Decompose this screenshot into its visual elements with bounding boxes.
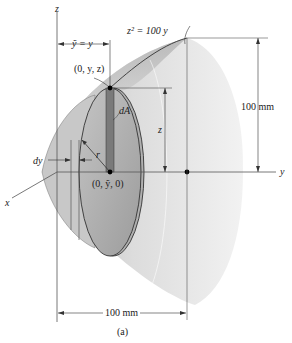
area-element-strip [106,88,114,172]
radius-label: r [96,150,100,160]
height-dim-label: z [158,125,162,135]
point-top-label: (0, y, z) [74,64,104,74]
paraboloid-figure: z y x z² = 100 y ỹ = y (0, y, z) dA r dy… [0,0,292,343]
point-top [108,86,113,91]
point-center [108,170,113,175]
length-total-label: 100 mm [103,308,140,318]
height-total-label: 100 mm [241,102,274,112]
centroid-distance-label: ỹ = y [72,39,93,49]
x-axis-label: x [5,198,9,208]
thickness-label: dy [33,156,42,166]
point-center-label: (0, ỹ, 0) [92,179,124,189]
z-axis-label: z [55,4,59,14]
equation-label: z² = 100 y [127,26,168,36]
y-axis-label: y [280,167,284,177]
paraboloid-diagram [0,0,292,343]
area-element-label: dA [119,106,130,116]
figure-caption: (a) [117,327,128,337]
